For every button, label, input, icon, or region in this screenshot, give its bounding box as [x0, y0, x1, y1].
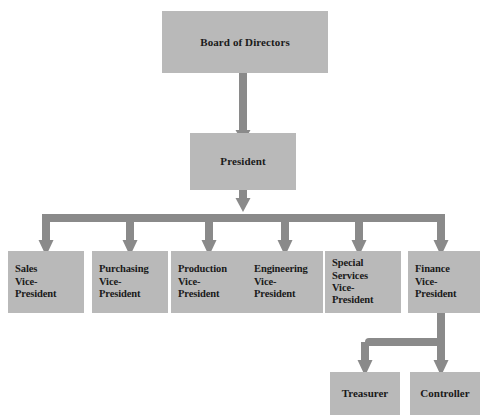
node-special-services-vice-president-label: Special Services Vice- President: [332, 257, 374, 307]
node-treasurer[interactable]: Treasurer: [330, 372, 400, 415]
connector-main-bus: [42, 214, 441, 222]
connector-bus-to-production: [202, 214, 217, 256]
node-board-of-directors-label: Board of Directors: [200, 36, 290, 49]
node-controller-label: Controller: [420, 387, 469, 400]
node-president[interactable]: President: [190, 133, 296, 190]
node-sales-vice-president-label: Sales Vice- President: [15, 263, 57, 300]
connector-bus-to-engineering: [278, 214, 293, 256]
node-president-label: President: [220, 155, 265, 168]
node-sales-vice-president[interactable]: Sales Vice- President: [8, 251, 84, 313]
connector-bus-to-purchasing: [123, 214, 138, 256]
node-controller[interactable]: Controller: [410, 372, 480, 415]
node-engineering-vice-president[interactable]: Engineering Vice- President: [247, 251, 323, 313]
node-special-services-vice-president[interactable]: Special Services Vice- President: [325, 251, 401, 313]
node-finance-vice-president-label: Finance Vice- President: [415, 263, 457, 300]
node-finance-vice-president[interactable]: Finance Vice- President: [408, 251, 480, 313]
connector-bus-to-sales: [39, 214, 54, 256]
node-engineering-vice-president-label: Engineering Vice- President: [254, 263, 308, 300]
node-purchasing-vice-president-label: Purchasing Vice- President: [99, 263, 149, 300]
node-production-vice-president-label: Production Vice- President: [178, 263, 227, 300]
node-purchasing-vice-president[interactable]: Purchasing Vice- President: [92, 251, 168, 313]
node-production-vice-president[interactable]: Production Vice- President: [171, 251, 247, 313]
node-treasurer-label: Treasurer: [342, 387, 388, 400]
connector-finance-to-reports: [358, 308, 449, 376]
connector-board-to-president: [236, 63, 251, 143]
connector-bus-to-special-services: [352, 214, 367, 256]
connector-bus-to-finance: [434, 214, 449, 256]
node-board-of-directors[interactable]: Board of Directors: [162, 11, 328, 73]
org-chart: Board of Directors President Sales Vice-…: [0, 0, 485, 419]
